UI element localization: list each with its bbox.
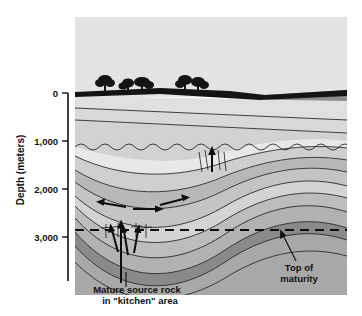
annotation-top-of-maturity: Top of maturity [280, 262, 318, 284]
axis-tick-label-1000: 1,000 [34, 136, 58, 147]
axis-tick-label-3000: 3,000 [34, 232, 58, 243]
kitchen-label-line2: in "kitchen" area [102, 295, 178, 306]
maturity-label-line1: Top of [285, 262, 314, 273]
axis-tick-label-0: 0 [53, 88, 58, 99]
maturity-label-line2: maturity [280, 273, 318, 284]
geologic-cross-section-figure: 0 1,000 2,000 3,000 Depth (meters) Matur… [0, 0, 362, 316]
sky-background [75, 17, 347, 97]
annotation-kitchen: Mature source rock in "kitchen" area [93, 284, 181, 306]
axis-tick-label-2000: 2,000 [34, 184, 58, 195]
cross-section-panel [75, 17, 351, 300]
kitchen-label-line1: Mature source rock [93, 284, 181, 295]
figure-svg: 0 1,000 2,000 3,000 Depth (meters) Matur… [0, 0, 362, 316]
axis-title-depth: Depth (meters) [15, 135, 26, 206]
